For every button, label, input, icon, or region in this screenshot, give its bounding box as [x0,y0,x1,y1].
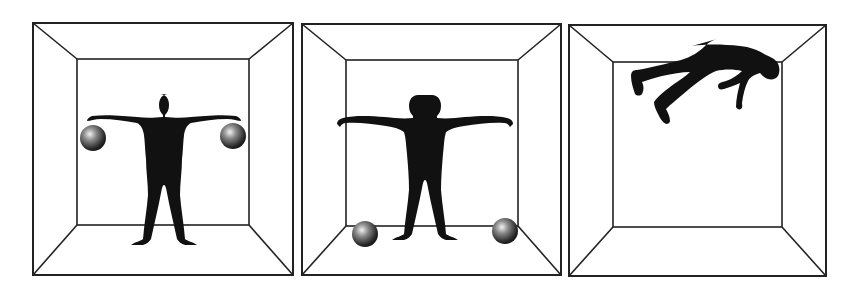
ball-icon [80,125,106,151]
ball-icon [352,221,378,247]
panel-2-figure-arms-out [337,95,513,240]
panel-3-floating-figure [631,39,779,124]
ball-icon [492,218,518,244]
weightlessness-illustration [0,0,858,294]
ball-icon [220,123,246,149]
panel-2-balls [352,218,518,247]
panel-1-figure-holding-balls [87,94,241,245]
